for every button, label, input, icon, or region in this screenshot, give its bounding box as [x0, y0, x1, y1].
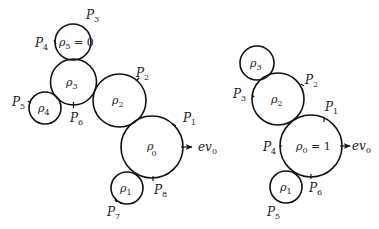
label-p8: P8: [153, 183, 167, 199]
label-p4: P4: [34, 36, 48, 52]
tick-p2: [301, 84, 304, 86]
label-p3: P3: [85, 8, 99, 24]
label-p2: P2: [304, 73, 318, 89]
label-rho0: ρ0 = 1: [295, 140, 331, 155]
label-rho5: ρ5 = 0: [58, 36, 94, 51]
label-rho2: ρ2: [270, 93, 283, 108]
label-rho3: ρ3: [249, 57, 262, 72]
label-rho3: ρ3: [65, 76, 78, 91]
circle-packing-diagram: ρ5 = 0 ρ3 ρ4 ρ2 ρ0 ρ1 ev0 P3 P4 P5 P6 P2…: [0, 0, 379, 229]
label-rho4: ρ4: [37, 102, 50, 117]
left-diagram: ρ5 = 0 ρ3 ρ4 ρ2 ρ0 ρ1 ev0 P3 P4 P5 P6 P2…: [11, 8, 217, 221]
label-p3: P3: [232, 87, 246, 103]
label-rho0: ρ0: [146, 140, 157, 158]
label-rho1: ρ1: [279, 181, 292, 196]
label-p1: P1: [324, 100, 338, 116]
label-p5: P5: [11, 95, 25, 111]
label-p6: P6: [308, 181, 322, 197]
label-rho1: ρ1: [119, 182, 132, 197]
label-p2: P2: [135, 66, 149, 82]
label-ev0: ev0: [198, 140, 217, 156]
label-p7: P7: [106, 205, 120, 221]
label-p1: P1: [182, 111, 196, 127]
label-p4: P4: [262, 140, 276, 156]
label-p6: P6: [69, 111, 83, 127]
label-ev0: ev0: [352, 139, 371, 155]
right-diagram: ρ3 ρ2 ρ0 = 1 ρ1 ev0 P3 P2 P1 P4 P6 P5: [232, 46, 371, 221]
label-rho2: ρ2: [111, 94, 124, 109]
label-p5: P5: [266, 205, 280, 221]
